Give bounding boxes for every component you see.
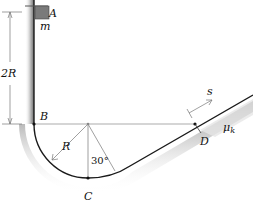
label-m: m (40, 20, 50, 33)
label-30-deg: 30° (91, 155, 109, 166)
block-m (35, 6, 49, 19)
point-C (86, 176, 89, 179)
center-point (87, 123, 90, 126)
track-diagram: A m 2R B R 30° C D s μk (0, 0, 253, 209)
label-R: R (61, 140, 70, 153)
label-B: B (39, 110, 48, 123)
label-A: A (48, 7, 57, 20)
point-B (32, 122, 35, 125)
s-arrow (187, 100, 212, 118)
label-C: C (84, 190, 93, 203)
label-2R: 2R (0, 67, 16, 80)
track-shading (19, 0, 253, 193)
label-s: s (207, 85, 213, 98)
label-D: D (199, 135, 209, 148)
